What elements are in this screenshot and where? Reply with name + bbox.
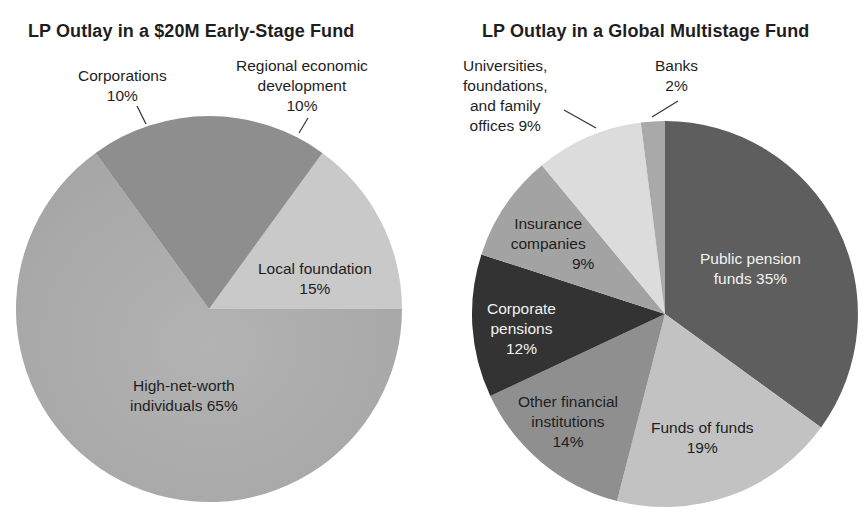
label-text: foundations, xyxy=(463,76,547,96)
label-text: Banks xyxy=(655,56,698,76)
label-text: Universities, xyxy=(463,56,547,76)
label-text: Local foundation xyxy=(258,259,372,279)
label-corporate-pensions: Corporate pensions 12% xyxy=(487,299,556,359)
label-text: institutions xyxy=(518,412,618,432)
label-funds-of-funds: Funds of funds 19% xyxy=(651,418,754,458)
label-text: Corporations xyxy=(78,66,167,86)
label-local-foundation: Local foundation 15% xyxy=(258,259,372,299)
label-text: Regional economic xyxy=(236,56,368,76)
label-regional-economic-development: Regional economic development 10% xyxy=(236,56,368,116)
label-other-financial-institutions: Other financial institutions 14% xyxy=(518,392,618,452)
label-high-net-worth: High-net-worth individuals 65% xyxy=(130,376,238,416)
label-value: individuals 65% xyxy=(130,396,238,416)
label-value: 15% xyxy=(258,279,372,299)
label-value: 14% xyxy=(518,432,618,452)
label-text: High-net-worth xyxy=(130,376,238,396)
label-universities: Universities, foundations, and family of… xyxy=(463,56,547,136)
label-value: 9% xyxy=(502,254,594,274)
label-value: 10% xyxy=(78,86,167,106)
label-banks: Banks 2% xyxy=(655,56,698,96)
label-value: 12% xyxy=(487,339,556,359)
label-text: pensions xyxy=(487,319,556,339)
label-text: Insurance xyxy=(502,214,594,234)
leader-line-universities xyxy=(564,110,596,128)
leader-line-regional xyxy=(299,118,308,133)
left-pie xyxy=(16,106,402,502)
label-text: Public pension xyxy=(700,249,801,269)
label-value: offices 9% xyxy=(463,116,547,136)
label-text: companies xyxy=(502,234,594,254)
label-value: 19% xyxy=(651,438,754,458)
label-corporations: Corporations 10% xyxy=(78,66,167,106)
label-text: Corporate xyxy=(487,299,556,319)
label-text: Other financial xyxy=(518,392,618,412)
label-value: 2% xyxy=(655,76,698,96)
leader-line-banks xyxy=(652,101,678,117)
label-insurance-companies: Insurance companies 9% xyxy=(502,214,594,274)
label-value: 10% xyxy=(236,96,368,116)
label-text: Funds of funds xyxy=(651,418,754,438)
label-text: and family xyxy=(463,96,547,116)
label-value: funds 35% xyxy=(700,269,801,289)
leader-line-corporations xyxy=(137,106,146,124)
label-text: development xyxy=(236,76,368,96)
label-public-pension-funds: Public pension funds 35% xyxy=(700,249,801,289)
